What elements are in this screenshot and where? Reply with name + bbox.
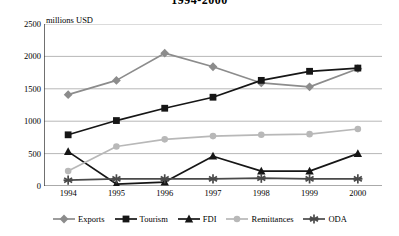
- legend-item-fdi[interactable]: FDI: [177, 213, 217, 225]
- plot-area: [44, 24, 382, 186]
- data-point-marker: [65, 168, 72, 175]
- data-point-marker: [64, 147, 72, 155]
- data-point-marker: [210, 133, 217, 140]
- series-oda: [64, 174, 363, 185]
- data-point-marker: [161, 105, 168, 112]
- x-axis-tick-labels: 1994199519961997199819992000: [44, 188, 382, 204]
- data-point-marker: [208, 174, 217, 183]
- legend-marker-triangle-icon: [177, 213, 201, 225]
- data-point-marker: [234, 216, 241, 223]
- legend-item-remittances[interactable]: Remittances: [225, 213, 293, 225]
- data-point-marker: [65, 131, 72, 138]
- data-point-marker: [122, 216, 129, 223]
- legend-item-tourism[interactable]: Tourism: [114, 213, 168, 225]
- data-point-marker: [209, 152, 217, 160]
- x-axis-tick-label: 1997: [205, 188, 222, 198]
- legend-marker-square-icon: [114, 213, 138, 225]
- series-line: [68, 68, 358, 135]
- legend-marker-asterisk-icon: [302, 213, 326, 225]
- y-axis-tick-label: 2500: [1, 19, 41, 29]
- y-axis-tick-label: 0: [1, 181, 41, 191]
- chart-legend: ExportsTourismFDIRemittancesODA: [0, 211, 399, 227]
- series-remittances: [65, 126, 361, 175]
- data-point-marker: [258, 132, 265, 139]
- legend-marker-diamond-icon: [52, 213, 76, 225]
- legend-label: Tourism: [140, 215, 168, 224]
- data-point-marker: [64, 90, 73, 99]
- legend-label: Exports: [78, 215, 104, 224]
- chart-container: 1994-2000 millions USD 05001000150020002…: [0, 0, 399, 236]
- data-point-marker: [306, 131, 313, 138]
- data-point-marker: [354, 149, 362, 157]
- series-line: [68, 53, 358, 94]
- legend-label: Remittances: [251, 215, 293, 224]
- chart-title: 1994-2000: [0, 0, 399, 8]
- y-axis-tick-label: 500: [1, 149, 41, 159]
- data-point-marker: [355, 126, 362, 133]
- legend-item-exports[interactable]: Exports: [52, 213, 104, 225]
- chart-plot-svg: [44, 24, 382, 186]
- x-axis-tick-label: 1998: [253, 188, 270, 198]
- data-point-marker: [353, 174, 362, 183]
- x-axis-tick-label: 1999: [301, 188, 318, 198]
- y-axis-tick-label: 1000: [1, 116, 41, 126]
- data-point-marker: [257, 174, 266, 183]
- x-axis-tick-label: 1994: [60, 188, 77, 198]
- x-axis-tick-label: 1996: [156, 188, 173, 198]
- data-point-marker: [161, 136, 168, 143]
- legend-label: FDI: [203, 215, 217, 224]
- data-point-marker: [305, 82, 314, 91]
- series-tourism: [65, 65, 362, 139]
- data-point-marker: [113, 117, 120, 124]
- x-axis-tick-label: 2000: [349, 188, 366, 198]
- data-point-marker: [209, 62, 218, 71]
- x-axis-tick-label: 1995: [108, 188, 125, 198]
- data-point-marker: [113, 143, 120, 150]
- y-axis-tick-label: 2000: [1, 51, 41, 61]
- legend-marker-circle-icon: [225, 213, 249, 225]
- y-axis-tick-label: 1500: [1, 84, 41, 94]
- y-axis-tick-labels: 05001000150020002500: [0, 24, 41, 186]
- data-point-marker: [210, 94, 217, 101]
- data-point-marker: [112, 76, 121, 85]
- data-point-marker: [354, 65, 361, 72]
- legend-item-oda[interactable]: ODA: [302, 213, 346, 225]
- data-point-marker: [258, 77, 265, 84]
- legend-label: ODA: [328, 215, 346, 224]
- data-point-marker: [64, 176, 73, 185]
- data-point-marker: [306, 68, 313, 75]
- data-point-marker: [305, 174, 314, 183]
- data-point-marker: [60, 215, 69, 224]
- data-point-marker: [310, 214, 319, 223]
